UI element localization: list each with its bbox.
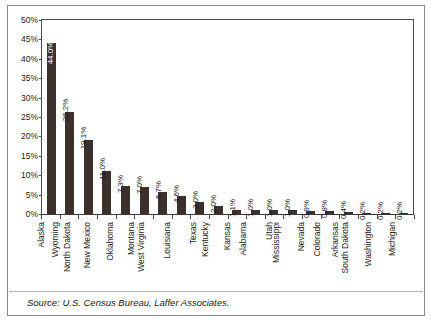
bar: 44.0%	[47, 43, 56, 214]
y-axis-tick-label: 15%	[21, 152, 38, 161]
x-axis-category-label: North Dakota	[63, 222, 72, 272]
x-axis-category-label: Arkansas	[331, 222, 340, 257]
x-axis-tick-mark	[116, 215, 117, 219]
x-axis-tick-mark	[172, 215, 173, 219]
y-axis-tick-label: 40%	[21, 55, 38, 64]
x-axis-tick-mark	[209, 215, 210, 219]
bar-value-label: 26.2%	[62, 99, 70, 122]
bar-value-label: 7.0%	[136, 176, 144, 194]
bar-slot: 1.0%	[283, 20, 302, 214]
bar: 1.0%	[269, 210, 278, 214]
bar-slot: 0.2%	[394, 20, 413, 214]
bar-value-label: 11.0%	[99, 158, 107, 180]
bar: 19.1%	[84, 140, 93, 214]
x-axis-tick-mark	[246, 215, 247, 219]
x-axis-tick-mark	[60, 215, 61, 219]
bar-slot: 11.0%	[98, 20, 117, 214]
bar-value-label: 19.1%	[80, 127, 88, 150]
bar: 0.2%	[381, 213, 390, 214]
y-axis-tick-label: 50%	[21, 16, 38, 25]
bar: 1.0%	[288, 210, 297, 214]
x-axis-category-label: West Virginia	[137, 222, 146, 272]
bar-slot: 2.0%	[209, 20, 228, 214]
x-axis-category-label: Wyoming	[51, 222, 60, 257]
source-note: Source: U.S. Census Bureau, Laffer Assoc…	[27, 298, 229, 308]
bar-slot: 4.6%	[172, 20, 191, 214]
bar: 7.0%	[140, 187, 149, 214]
bar: 5.7%	[158, 192, 167, 214]
plot-area: 0%5%10%15%20%25%30%35%40%45%50% 44.0%26.…	[41, 19, 414, 215]
bar: 1.0%	[251, 210, 260, 214]
y-axis-tick-label: 0%	[26, 210, 38, 219]
x-axis-category-label: Texas	[188, 222, 197, 244]
y-axis-tick-label: 25%	[21, 113, 38, 122]
bar-value-label: 4.6%	[173, 185, 181, 203]
y-axis-tick-label: 45%	[21, 35, 38, 44]
bar-slot: 19.1%	[79, 20, 98, 214]
x-axis-tick-mark	[339, 215, 340, 219]
bar-slot: 0.4%	[339, 20, 358, 214]
x-axis-tick-mark	[395, 215, 396, 219]
x-axis-tick-mark	[321, 215, 322, 219]
x-axis-tick-mark	[97, 215, 98, 219]
bar: 0.2%	[362, 213, 371, 214]
bar-slot: 0.2%	[357, 20, 376, 214]
x-axis-category-label: South Dakota	[342, 222, 351, 274]
x-axis-tick-mark	[78, 215, 79, 219]
x-axis-tick-mark	[228, 215, 229, 219]
x-axis-category-label: Washington	[364, 222, 373, 267]
footer-divider	[9, 291, 423, 292]
x-axis-category-label: Michigan	[388, 222, 397, 256]
bar: 7.3%	[121, 186, 130, 214]
bar-value-label: 3.0%	[192, 191, 200, 209]
x-axis-tick-mark	[190, 215, 191, 219]
bar: 0.9%	[306, 211, 315, 214]
x-axis-category-label: Louisiana	[163, 222, 172, 258]
bar-slot: 1.0%	[265, 20, 284, 214]
chart-figure: 0%5%10%15%20%25%30%35%40%45%50% 44.0%26.…	[7, 5, 425, 316]
bar-value-label: 44.0%	[47, 42, 55, 65]
x-axis-ticks	[41, 215, 414, 219]
bar: 3.0%	[195, 202, 204, 214]
x-axis-tick-mark	[41, 215, 42, 219]
x-axis-category-label: Montana	[127, 222, 136, 255]
bar: 2.0%	[214, 206, 223, 214]
y-axis-tick-label: 10%	[21, 171, 38, 180]
bar-slot: 1.1%	[227, 20, 246, 214]
bar-slot: 3.0%	[190, 20, 209, 214]
bar-slot: 0.9%	[302, 20, 321, 214]
y-axis-tick-label: 5%	[26, 190, 38, 199]
y-axis-tick-label: 35%	[21, 74, 38, 83]
y-axis-tick-label: 20%	[21, 132, 38, 141]
category-slot: Alabama	[246, 220, 265, 290]
bar: 11.0%	[102, 171, 111, 214]
bar-slot: 0.2%	[376, 20, 395, 214]
bar-value-label: 2.0%	[210, 195, 218, 213]
x-axis-category-label: Kansas	[223, 222, 232, 250]
bar: 4.6%	[177, 196, 186, 214]
bar-slot: 0.8%	[320, 20, 339, 214]
x-axis-category-label: Alaska	[38, 222, 47, 248]
bar: 26.2%	[65, 112, 74, 214]
bar-slot: 5.7%	[153, 20, 172, 214]
x-axis-tick-mark	[358, 215, 359, 219]
x-axis-category-label: New Mexico	[83, 222, 92, 268]
bar: 1.1%	[232, 210, 241, 214]
x-axis-category-label: Alabama	[239, 222, 248, 256]
category-slot: Michigan	[395, 220, 414, 290]
x-axis-category-label: Mississippi	[272, 222, 281, 263]
bar-series: 44.0%26.2%19.1%11.0%7.3%7.0%5.7%4.6%3.0%…	[42, 20, 413, 214]
bar-slot: 44.0%	[42, 20, 61, 214]
bar-value-label: 5.7%	[155, 181, 163, 199]
bar-value-label: 7.3%	[117, 175, 125, 193]
x-axis-category-label: Oklahoma	[106, 222, 115, 261]
x-axis-tick-mark	[377, 215, 378, 219]
x-axis-category-label: Colorado	[313, 222, 322, 257]
bar-slot: 7.0%	[135, 20, 154, 214]
x-axis-tick-mark	[153, 215, 154, 219]
x-axis-category-label: Nevada	[297, 222, 306, 251]
bar: 0.4%	[344, 212, 353, 214]
bar-slot: 7.3%	[116, 20, 135, 214]
x-axis-tick-mark	[265, 215, 266, 219]
bar-slot: 26.2%	[61, 20, 80, 214]
